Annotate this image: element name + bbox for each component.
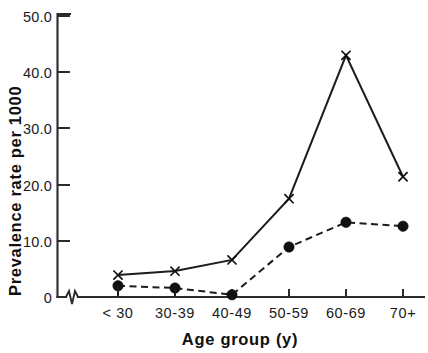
series-line-1 [118, 222, 403, 294]
y-axis-title: Prevalence rate per 1000 [6, 86, 24, 296]
y-axis-line [58, 14, 71, 297]
y-tick-label-10: 10.0 [23, 234, 52, 250]
data-point-marker [341, 217, 351, 227]
x-tick-label-60-69: 60-69 [326, 305, 366, 321]
y-tick-label-30: 30.0 [23, 121, 52, 137]
y-axis-tick-labels: 50.0 40.0 30.0 20.0 10.0 0 [23, 9, 52, 306]
y-tick-label-0: 0 [44, 290, 52, 306]
y-tick-label-40: 40.0 [23, 65, 52, 81]
x-axis-ticks [118, 289, 403, 297]
data-point-marker [398, 221, 408, 231]
x-axis-title: Age group (y) [182, 330, 298, 348]
line-chart-svg: Prevalence rate per 1000 50.0 40.0 30.0 … [0, 0, 428, 353]
series-line-0 [118, 55, 403, 275]
x-tick-label-30-39: 30-39 [155, 305, 195, 321]
plot-data-layer [113, 51, 408, 300]
chart-figure: Prevalence rate per 1000 50.0 40.0 30.0 … [0, 0, 428, 353]
x-axis-tick-labels: < 30 30-39 40-49 50-59 60-69 70+ [102, 305, 416, 321]
data-point-marker [227, 290, 237, 300]
data-point-marker [342, 51, 350, 59]
data-point-marker [399, 173, 407, 181]
x-tick-label-40-49: 40-49 [212, 305, 252, 321]
y-axis-ticks [58, 16, 71, 241]
x-tick-label-50-59: 50-59 [269, 305, 309, 321]
x-tick-label-70plus: 70+ [390, 305, 416, 321]
x-axis-break-mark [66, 291, 78, 304]
x-tick-label-under30: < 30 [102, 305, 133, 321]
y-tick-label-50: 50.0 [23, 9, 52, 25]
y-tick-label-20: 20.0 [23, 178, 52, 194]
series-series-x-marker [114, 51, 407, 279]
data-point-marker [284, 242, 294, 252]
data-point-marker [285, 195, 293, 203]
